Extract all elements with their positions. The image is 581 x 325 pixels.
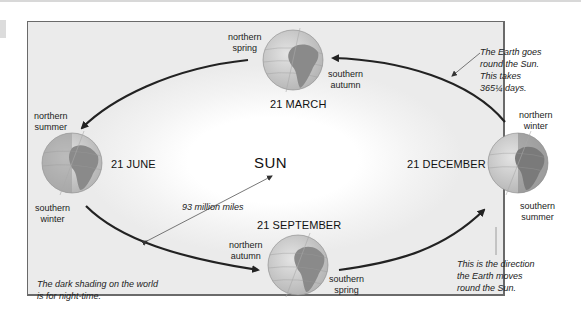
globe-september <box>268 233 328 297</box>
direction-note: This is the direction the Earth moves ro… <box>457 258 535 294</box>
globe-december <box>488 131 548 195</box>
date-june: 21 JUNE <box>111 158 156 170</box>
march-southern-season: southern autumn <box>328 69 363 91</box>
date-september: 21 SEPTEMBER <box>257 219 341 231</box>
orbit-period-note: The Earth goes round the Sun. This takes… <box>480 46 542 94</box>
globe-june <box>42 131 102 195</box>
orbit-note-leader <box>452 53 480 76</box>
sun-label: SUN <box>254 154 287 171</box>
june-northern-season: northern summer <box>34 111 68 133</box>
orbit-arc-march-to-june <box>82 60 248 128</box>
september-northern-season: northern autumn <box>229 240 263 262</box>
distance-label: 93 million miles <box>182 201 244 213</box>
date-march: 21 MARCH <box>270 98 326 110</box>
globe-march <box>263 28 323 92</box>
december-southern-season: southern summer <box>520 201 555 223</box>
december-northern-season: northern winter <box>519 110 553 132</box>
march-northern-season: northern spring <box>228 32 262 54</box>
night-shading-note: The dark shading on the world is for nig… <box>37 278 158 302</box>
september-southern-season: southern spring <box>329 274 364 296</box>
june-southern-season: southern winter <box>35 203 70 225</box>
date-december: 21 DECEMBER <box>407 158 486 170</box>
